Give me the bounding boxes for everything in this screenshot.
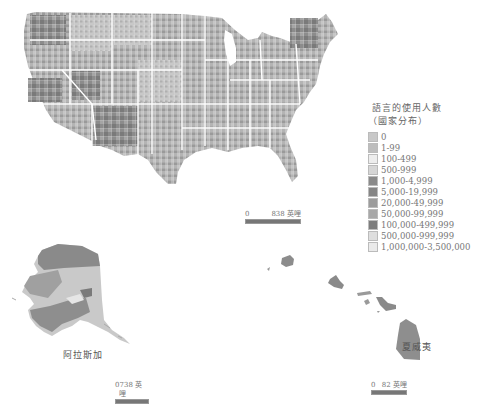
scale-end: 738 <box>119 381 132 389</box>
legend-label: 1-99 <box>381 143 400 153</box>
legend-swatch <box>368 209 378 219</box>
legend-item: 50,000-99,999 <box>368 208 484 219</box>
scale-start: 0 <box>245 210 249 219</box>
legend-item: 500-999 <box>368 164 484 175</box>
legend: 語言的使用人數 （國家分布） 01-99100-499500-9991,000-… <box>368 102 484 252</box>
legend-swatch <box>368 165 378 175</box>
scale-end: 838 <box>271 210 284 218</box>
scale-bar <box>115 399 149 404</box>
legend-label: 5,000-19,999 <box>381 187 438 197</box>
legend-item: 100,000-499,999 <box>368 219 484 230</box>
legend-swatch <box>368 154 378 164</box>
scale-bar <box>371 390 407 395</box>
scale-unit: 英哩 <box>287 210 301 218</box>
legend-label: 100-499 <box>381 154 416 164</box>
legend-item: 1,000-4,999 <box>368 175 484 186</box>
hawaii-map <box>260 245 420 365</box>
hawaii-label: 夏威夷 <box>402 340 432 353</box>
legend-label: 1,000-4,999 <box>381 176 433 186</box>
alaska-label: 阿拉斯加 <box>63 348 103 361</box>
legend-title: 語言的使用人數 <box>368 102 484 115</box>
legend-label: 20,000-49,999 <box>381 198 443 208</box>
alaska-map <box>0 240 140 350</box>
legend-subtitle: （國家分布） <box>368 115 484 128</box>
scale-start: 0 <box>371 381 375 390</box>
legend-swatch <box>368 198 378 208</box>
scale-end: 82 <box>382 381 391 389</box>
legend-item: 5,000-19,999 <box>368 186 484 197</box>
legend-label: 0 <box>381 132 386 142</box>
scale-bar <box>245 219 301 224</box>
legend-label: 100,000-499,999 <box>381 220 454 230</box>
scale-bar-hawaii: 0 82 英哩 <box>371 381 407 395</box>
legend-items: 01-99100-499500-9991,000-4,9995,000-19,9… <box>368 131 484 252</box>
legend-swatch <box>368 176 378 186</box>
legend-item: 0 <box>368 131 484 142</box>
legend-swatch <box>368 132 378 142</box>
legend-swatch <box>368 231 378 241</box>
legend-label: 50,000-99,999 <box>381 209 443 219</box>
scale-bar-alaska: 0 738 英哩 <box>115 381 149 404</box>
scale-bar-contiguous: 0 838 英哩 <box>245 210 301 224</box>
legend-label: 500,000-999,999 <box>381 231 454 241</box>
contiguous-us-map <box>0 0 365 210</box>
legend-swatch <box>368 220 378 230</box>
legend-label: 500-999 <box>381 165 416 175</box>
legend-swatch <box>368 187 378 197</box>
legend-item: 1-99 <box>368 142 484 153</box>
scale-unit: 英哩 <box>393 381 407 389</box>
legend-item: 100-499 <box>368 153 484 164</box>
legend-item: 20,000-49,999 <box>368 197 484 208</box>
legend-item: 500,000-999,999 <box>368 230 484 241</box>
legend-swatch <box>368 143 378 153</box>
